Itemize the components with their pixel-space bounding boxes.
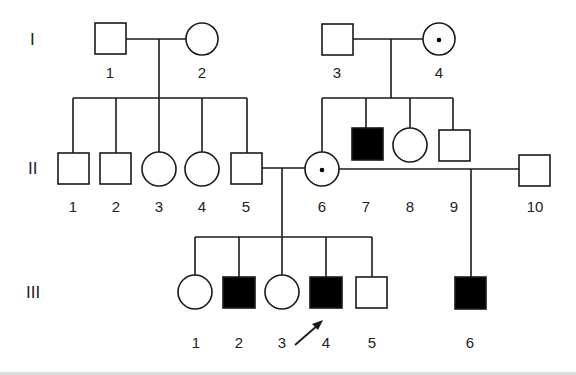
individual-III-3-female (265, 275, 299, 309)
individual-I-3-male (322, 24, 353, 55)
label-II-7: 7 (362, 198, 370, 215)
individual-II-6-female-carrier (305, 152, 339, 186)
union-II5-II6 (195, 168, 372, 277)
label-II-9: 9 (450, 198, 458, 215)
label-I-2: 2 (198, 64, 206, 81)
label-II-2: 2 (112, 198, 120, 215)
individual-I-2-female (186, 23, 218, 55)
label-III-3: 3 (278, 334, 286, 351)
pedigree-diagram: I II III 1 2 3 4 1 2 3 4 5 (0, 0, 576, 375)
label-II-8: 8 (406, 198, 414, 215)
individual-II-5-male (231, 153, 262, 184)
label-III-4: 4 (322, 334, 330, 351)
generation-label-II: II (28, 159, 37, 178)
carrier-dot-icon (320, 168, 325, 173)
label-III-1: 1 (192, 334, 200, 351)
proband-arrow-icon (295, 320, 323, 345)
union-II6-II10 (339, 169, 519, 277)
individual-II-2-male (100, 153, 131, 184)
generation-label-III: III (26, 283, 40, 302)
label-III-2: 2 (235, 334, 243, 351)
union-I1-I2 (73, 39, 247, 153)
label-I-1: 1 (106, 64, 114, 81)
individual-II-8-female (393, 128, 427, 162)
individual-III-1-female (178, 275, 212, 309)
label-II-10: 10 (527, 198, 544, 215)
union-I3-I4 (322, 39, 453, 152)
individual-III-2-male-affected (223, 277, 255, 308)
label-II-4: 4 (198, 198, 206, 215)
label-II-6: 6 (318, 198, 326, 215)
individual-III-5-male (356, 277, 387, 308)
label-II-5: 5 (242, 198, 250, 215)
individual-II-7-male-affected (352, 128, 383, 160)
individual-II-9-male (439, 130, 470, 161)
label-II-1: 1 (69, 198, 77, 215)
individual-I-4-female-carrier (423, 23, 455, 55)
individual-II-10-male (519, 155, 550, 186)
generation-label-I: I (30, 30, 35, 49)
label-I-3: 3 (333, 64, 341, 81)
individual-II-1-male (58, 153, 89, 184)
label-II-3: 3 (155, 198, 163, 215)
label-I-4: 4 (435, 64, 443, 81)
individual-II-3-female (142, 152, 176, 186)
label-III-5: 5 (368, 334, 376, 351)
individual-I-1-male (95, 23, 126, 54)
individual-III-6-male-affected (455, 277, 486, 309)
carrier-dot-icon (437, 38, 442, 43)
label-III-6: 6 (466, 334, 474, 351)
individual-III-4-male-affected-proband (310, 277, 342, 308)
individual-II-4-female (185, 152, 219, 186)
